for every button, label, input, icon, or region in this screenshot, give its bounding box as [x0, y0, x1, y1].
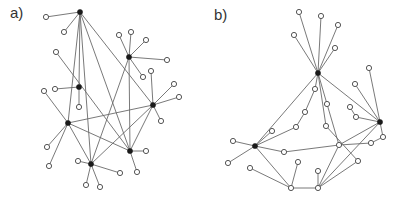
graph-edge [318, 161, 358, 188]
leaf-node [295, 159, 300, 164]
leaf-node [134, 169, 139, 174]
leaf-node [353, 114, 358, 119]
leaf-node [247, 165, 252, 170]
leaf-node [230, 138, 235, 143]
graph-edge [291, 162, 298, 188]
leaf-node [380, 134, 385, 139]
leaf-node [53, 49, 58, 54]
graph-edge [339, 143, 371, 145]
graph-edge [255, 73, 318, 146]
hub-node [88, 161, 93, 166]
leaf-node [83, 182, 88, 187]
graph-edge [68, 123, 130, 151]
leaf-node [315, 168, 320, 173]
hub-node [76, 84, 81, 89]
leaf-node [158, 118, 163, 123]
leaf-node [347, 104, 352, 109]
graph-edge [46, 12, 80, 17]
leaf-node [171, 81, 176, 86]
graph-a-edges [44, 12, 179, 187]
leaf-node [335, 22, 340, 27]
hub-node [65, 120, 70, 125]
network-graph-a [41, 9, 181, 189]
graph-edge [305, 89, 315, 112]
leaf-node [318, 13, 323, 18]
graph-edge [47, 123, 68, 147]
graph-edge [44, 91, 68, 123]
graph-edge [129, 32, 131, 57]
graph-edge [91, 164, 120, 173]
graph-edge [294, 35, 318, 73]
leaf-node [41, 88, 46, 93]
graph-edge [49, 123, 68, 166]
graph-edge [233, 141, 255, 146]
leaf-node [296, 9, 301, 14]
leaf-node [164, 57, 169, 62]
graph-edge [151, 71, 153, 105]
leaf-node [366, 65, 371, 70]
network-graph-b [225, 9, 385, 190]
leaf-node [336, 142, 341, 147]
graph-edge [318, 73, 326, 126]
graph-edge [299, 12, 318, 73]
graph-edge [80, 12, 130, 151]
leaf-node [315, 185, 320, 190]
graph-edge [130, 105, 153, 151]
leaf-node [312, 86, 317, 91]
graph-edge [318, 73, 380, 122]
graph-edge [129, 40, 146, 57]
graph-edge [86, 164, 91, 185]
leaf-node [293, 124, 298, 129]
leaf-node [61, 29, 66, 34]
hub-node [77, 9, 82, 14]
graph-edge [250, 168, 291, 188]
leaf-node [352, 81, 357, 86]
graph-edge [318, 145, 339, 188]
graph-edge [56, 52, 130, 151]
hub-node [315, 70, 320, 75]
leaf-node [324, 101, 329, 106]
leaf-node [116, 32, 121, 37]
leaf-node [281, 149, 286, 154]
hub-node [126, 54, 131, 59]
graph-edge [129, 57, 143, 77]
leaf-node [302, 109, 307, 114]
leaf-node [52, 86, 57, 91]
leaf-node [323, 123, 328, 128]
leaf-node [75, 158, 80, 163]
graph-edge [129, 57, 167, 60]
leaf-node [143, 37, 148, 42]
graph-edge [318, 122, 380, 188]
hub-node [377, 119, 382, 124]
leaf-node [148, 68, 153, 73]
graph-edge [55, 87, 79, 89]
leaf-node [76, 104, 81, 109]
graph-edge [284, 145, 339, 152]
leaf-node [368, 140, 373, 145]
leaf-node [97, 184, 102, 189]
leaf-node [355, 158, 360, 163]
graph-edge [119, 35, 129, 57]
leaf-node [291, 32, 296, 37]
graph-edge [91, 164, 100, 187]
graph-edge [64, 12, 80, 32]
graph-edge [318, 16, 321, 73]
hub-node [127, 148, 132, 153]
graph-b-nodes [225, 9, 385, 190]
leaf-node [140, 74, 145, 79]
graph-edge [129, 57, 130, 151]
leaf-node [128, 29, 133, 34]
leaf-node [44, 144, 49, 149]
leaf-node [43, 14, 48, 19]
leaf-node [46, 163, 51, 168]
graph-edge [255, 127, 296, 146]
graph-edge [318, 73, 327, 104]
leaf-node [269, 128, 274, 133]
leaf-node [176, 94, 181, 99]
leaf-node [117, 170, 122, 175]
graph-edge [68, 123, 91, 164]
graph-edge [91, 105, 153, 164]
leaf-node [143, 148, 148, 153]
hub-node [252, 143, 257, 148]
network-diagrams [0, 0, 395, 202]
